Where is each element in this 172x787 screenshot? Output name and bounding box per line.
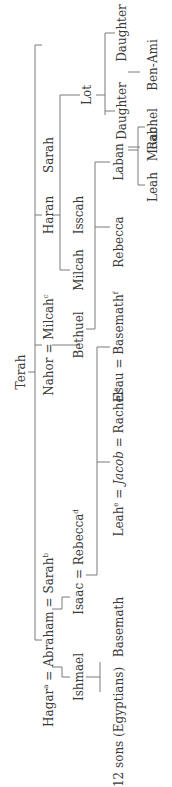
node-nahor-marriage: Nahor = Milcahc (42, 294, 56, 396)
node-ishmael: Ishmael (72, 653, 86, 701)
node-nahor: Nahor (42, 357, 56, 395)
marriage-sign: = (112, 437, 126, 447)
node-milcah-wife: Milcah (42, 298, 56, 340)
node-daughter-1: Daughter (115, 82, 129, 140)
node-isaac: Isaac (72, 583, 86, 615)
node-isscah: Isscah (72, 196, 86, 235)
node-twelve-sons: 12 sons (Egyptians) (112, 667, 126, 787)
node-rebecca: Rebecca (112, 216, 126, 268)
footnote-b: b (42, 553, 50, 557)
node-rachel: Rachel (146, 108, 160, 150)
node-bethuel: Bethuel (72, 311, 86, 358)
node-laban: Laban (112, 143, 126, 181)
node-ben-ami: Ben-Ami (146, 39, 160, 91)
footnote-d: d (72, 509, 80, 513)
node-rebecca-wife: Rebecca (72, 514, 86, 566)
node-isaac-marriage: Isaac = Rebeccad (72, 509, 86, 615)
node-daughter-2: Daughter (115, 4, 129, 62)
marriage-sign: = (42, 597, 56, 607)
node-esau: Esau (112, 372, 126, 402)
node-leah-wife: Leah (112, 507, 126, 537)
node-abraham: Abraham (42, 611, 56, 667)
footnote-e: e (112, 502, 120, 506)
node-basemath: Basemath (112, 597, 126, 657)
node-milcah: Milcah (72, 249, 86, 291)
node-leah: Leah (146, 172, 160, 202)
node-hagar: Hagar (42, 689, 56, 727)
node-haran: Haran (42, 196, 56, 234)
marriage-sign: = (42, 671, 56, 681)
node-abraham-marriage: Hagara = Abraham = Sarahb (42, 553, 56, 727)
node-jacob: Jacob (112, 451, 126, 485)
node-jacob-marriage: Leahe = Jacob = Rachele (112, 387, 126, 536)
footnote-a: a (42, 685, 50, 689)
marriage-sign: = (112, 359, 126, 369)
family-tree-diagram: Terah Hagara = Abraham = Sarahb Nahor = … (0, 0, 172, 787)
node-terah: Terah (14, 355, 28, 390)
node-basemath-wife: Basemath (112, 294, 126, 354)
node-esau-marriage: Esau = Basemathf (112, 292, 126, 402)
marriage-sign: = (72, 569, 86, 579)
footnote-f: f (112, 292, 120, 295)
node-sarah: Sarah (42, 137, 56, 173)
node-sarah-wife: Sarah (42, 558, 56, 594)
marriage-sign: = (42, 344, 56, 354)
marriage-sign: = (112, 489, 126, 499)
node-lot: Lot (80, 85, 94, 105)
footnote-c: c (42, 294, 50, 298)
